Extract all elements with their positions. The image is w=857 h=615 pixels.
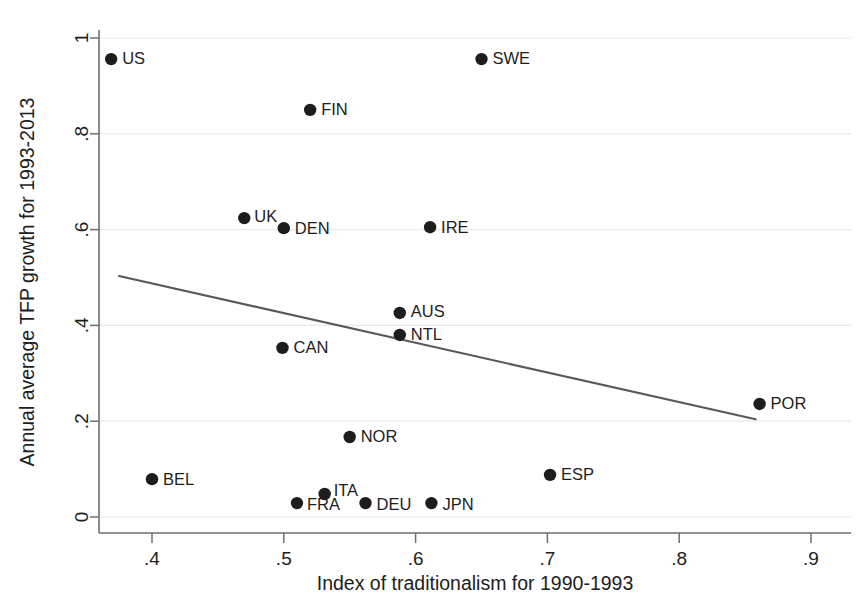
x-tick-label: .7 xyxy=(539,548,555,569)
data-point-marker[interactable] xyxy=(394,307,406,319)
x-tick-label: .5 xyxy=(276,548,292,569)
data-point-marker[interactable] xyxy=(278,222,290,234)
data-point-marker[interactable] xyxy=(238,212,250,224)
x-tick-label: .4 xyxy=(144,548,160,569)
data-point-marker[interactable] xyxy=(276,342,288,354)
data-points-group: USSWEFINUKDENIREAUSNTLCANPORNORESPBELITA… xyxy=(105,49,806,513)
data-point-label: US xyxy=(122,49,145,67)
data-point-label: DEN xyxy=(295,219,330,237)
data-point-marker[interactable] xyxy=(105,53,117,65)
x-axis: .4.5.6.7.8.9 xyxy=(99,533,851,569)
x-tick-label: .9 xyxy=(803,548,819,569)
data-point-marker[interactable] xyxy=(544,469,556,481)
grid-lines xyxy=(99,38,851,517)
y-tick-label: .8 xyxy=(71,126,92,142)
data-point-label: AUS xyxy=(411,302,445,320)
data-point-marker[interactable] xyxy=(359,497,371,509)
data-point-marker[interactable] xyxy=(425,497,437,509)
y-tick-label: .2 xyxy=(71,413,92,429)
data-point-marker[interactable] xyxy=(146,473,158,485)
data-point-label: IRE xyxy=(441,218,469,236)
plot-canvas: 0.2.4.6.81 .4.5.6.7.8.9 USSWEFINUKDENIRE… xyxy=(0,0,857,615)
data-point-label: JPN xyxy=(442,495,473,513)
data-point-marker[interactable] xyxy=(344,431,356,443)
data-point-marker[interactable] xyxy=(475,53,487,65)
y-tick-label: .4 xyxy=(71,317,92,333)
data-point-label: UK xyxy=(254,207,277,225)
data-point-label: NTL xyxy=(411,325,442,343)
data-point-label: BEL xyxy=(163,470,194,488)
y-axis-title: Annual average TFP growth for 1993-2013 xyxy=(16,98,38,467)
data-point-marker[interactable] xyxy=(291,497,303,509)
y-tick-label: .6 xyxy=(71,222,92,238)
data-point-marker[interactable] xyxy=(304,104,316,116)
data-point-marker[interactable] xyxy=(424,221,436,233)
x-tick-label: .8 xyxy=(671,548,687,569)
data-point-label: FIN xyxy=(321,100,348,118)
data-point-marker[interactable] xyxy=(753,398,765,410)
x-axis-title: Index of traditionalism for 1990-1993 xyxy=(317,572,634,594)
data-point-marker[interactable] xyxy=(394,329,406,341)
data-point-label: POR xyxy=(771,394,807,412)
regression-line xyxy=(119,276,756,419)
data-point-label: SWE xyxy=(493,49,531,67)
data-point-label: CAN xyxy=(293,338,328,356)
y-tick-label: 0 xyxy=(71,512,92,523)
data-point-label: FRA xyxy=(307,495,340,513)
scatter-plot-figure: 0.2.4.6.81 .4.5.6.7.8.9 USSWEFINUKDENIRE… xyxy=(0,0,857,615)
data-point-label: DEU xyxy=(377,495,412,513)
regression-line-group xyxy=(119,276,756,419)
data-point-label: ESP xyxy=(561,465,594,483)
data-point-label: NOR xyxy=(361,427,398,445)
y-axis: 0.2.4.6.81 xyxy=(71,30,99,533)
y-tick-label: 1 xyxy=(71,33,92,44)
x-tick-label: .6 xyxy=(408,548,424,569)
